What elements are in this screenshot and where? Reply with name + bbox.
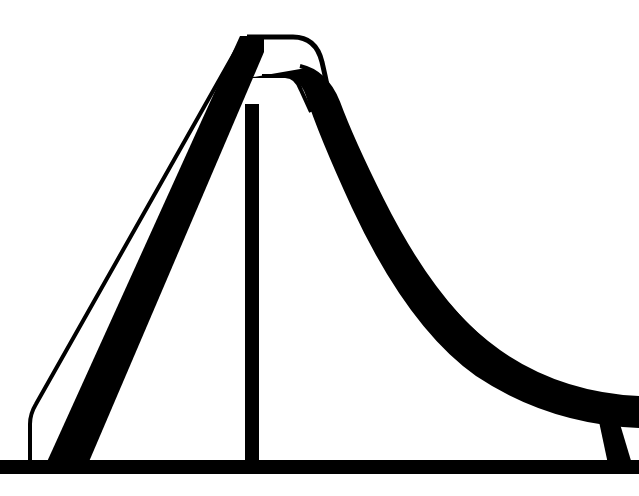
ground-bar-path [0,460,639,474]
center-post-path [245,104,259,464]
playground-slide-illustration [0,0,639,496]
image-canvas: Playground Slide Silhouette Side view si… [0,0,639,496]
